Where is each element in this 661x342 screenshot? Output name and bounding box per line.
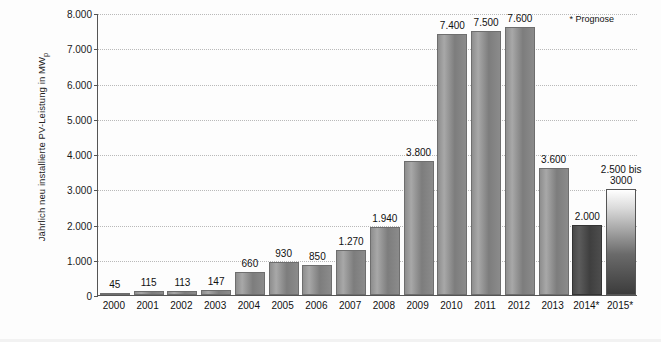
x-axis-label: 2006 [300, 300, 334, 311]
bar-value-label: 3.800 [406, 147, 431, 158]
bar-slot: 1.940 [368, 14, 402, 295]
bar-value-label: 7.400 [440, 20, 465, 31]
bar-value-label: 45 [109, 279, 120, 290]
x-axis-label: 2011 [468, 300, 502, 311]
y-axis-title-main: Jährlich neu installierte PV-Leistung in… [36, 57, 47, 241]
bar[interactable] [201, 290, 231, 295]
bar[interactable] [572, 225, 602, 296]
x-axis-label: 2014* [570, 300, 604, 311]
bar-value-label: 7.600 [507, 13, 532, 24]
x-axis-label: 2007 [333, 300, 367, 311]
bar-slot: 7.400 [436, 14, 470, 295]
y-axis-title-subscript: p [41, 53, 50, 57]
pv-capacity-bar-chart: Jährlich neu installierte PV-Leistung in… [0, 0, 661, 342]
bar-value-label: 7.500 [474, 17, 499, 28]
bar[interactable] [167, 291, 197, 295]
bar-slot: 1.270 [334, 14, 368, 295]
bar[interactable] [235, 272, 265, 295]
bar-label-line: 2.500 bis [601, 164, 642, 175]
y-tick-label: 5.000 [67, 114, 92, 125]
y-tick-label: 2.000 [67, 220, 92, 231]
bar-slot: 147 [199, 14, 233, 295]
bar-value-label: 115 [141, 277, 157, 288]
bar-value-label: 2.500 bis3000 [601, 164, 642, 186]
x-axis-label: 2010 [435, 300, 469, 311]
bar-slot: 660 [233, 14, 267, 295]
bar-slot: 115 [132, 14, 166, 295]
bar-label-line: 3000 [601, 175, 642, 186]
y-tick-label: 7.000 [67, 44, 92, 55]
bar[interactable] [471, 31, 501, 295]
x-axis-label: 2013 [536, 300, 570, 311]
bar-slot: 2.000 [571, 14, 605, 295]
bar[interactable] [404, 161, 434, 295]
bar-slot: 7.500 [469, 14, 503, 295]
bar-slot: 930 [267, 14, 301, 295]
x-axis-label: 2008 [367, 300, 401, 311]
bar-value-label: 1.270 [339, 236, 364, 247]
y-tick-label: 8.000 [67, 9, 92, 20]
bar-slot: 7.600 [503, 14, 537, 295]
y-tick-label: 4.000 [67, 150, 92, 161]
bar[interactable] [606, 189, 636, 295]
y-tick-mark [94, 296, 98, 297]
bar[interactable] [134, 291, 164, 295]
bar[interactable] [539, 168, 569, 295]
bar-value-label: 147 [208, 276, 225, 287]
bar-value-label: 113 [174, 277, 190, 288]
bar-value-label: 850 [309, 251, 326, 262]
bar-value-label: 930 [275, 248, 292, 259]
bar-series: 451151131476609308501.2701.9403.8007.400… [98, 14, 637, 295]
x-axis-label: 2015* [603, 300, 637, 311]
x-axis-label: 2004 [232, 300, 266, 311]
x-axis-label: 2005 [266, 300, 300, 311]
x-axis-label: 2003 [198, 300, 232, 311]
y-tick-label: 0 [86, 291, 92, 302]
y-axis-title: Jährlich neu installierte PV-Leistung in… [36, 12, 50, 282]
bar[interactable] [269, 262, 299, 295]
bar[interactable] [100, 293, 130, 295]
bar[interactable] [437, 34, 467, 295]
bar-slot: 850 [301, 14, 335, 295]
footnote-prognose: * Prognose [570, 14, 604, 24]
bar[interactable] [336, 250, 366, 295]
x-axis-label: 2012 [502, 300, 536, 311]
x-axis-label: 2002 [165, 300, 199, 311]
bar-value-label: 660 [242, 258, 259, 269]
bar[interactable] [370, 227, 400, 295]
bar-value-label: 1.940 [372, 213, 397, 224]
bar[interactable] [505, 27, 535, 295]
bar-value-label: 3.600 [541, 154, 566, 165]
x-axis-labels: 2000200120022003200420052006200720082009… [97, 300, 637, 340]
y-tick-label: 6.000 [67, 79, 92, 90]
bar-slot: 113 [166, 14, 200, 295]
y-tick-label: 1.000 [67, 255, 92, 266]
y-tick-label: 3.000 [67, 185, 92, 196]
bar-slot: 3.800 [402, 14, 436, 295]
plot-area: 01.0002.0003.0004.0005.0006.0007.0008.00… [97, 14, 637, 296]
x-axis-label: 2009 [401, 300, 435, 311]
bar-slot: 45 [98, 14, 132, 295]
bar-slot: 3.600 [537, 14, 571, 295]
bar-slot: 2.500 bis3000 [604, 14, 638, 295]
bar[interactable] [302, 265, 332, 295]
bar-value-label: 2.000 [575, 211, 600, 222]
x-axis-label: 2000 [97, 300, 131, 311]
x-axis-label: 2001 [131, 300, 165, 311]
